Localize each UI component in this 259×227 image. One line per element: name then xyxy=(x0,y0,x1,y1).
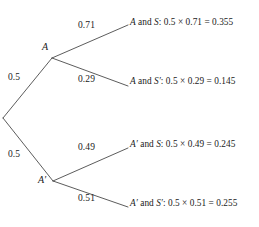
tree-branch-lines xyxy=(0,0,259,227)
branch-root-to-A xyxy=(3,58,52,118)
probability-tree-diagram: A A′ 0.5 0.5 0.71 0.29 0.49 0.51 A and S… xyxy=(0,0,259,227)
probability-A-to-S-prime: 0.29 xyxy=(78,75,95,85)
probability-root-to-A-prime: 0.5 xyxy=(8,150,20,160)
probability-root-to-A: 0.5 xyxy=(8,73,20,83)
branch-A-prime-to-S xyxy=(53,148,128,181)
probability-A-prime-to-S-prime: 0.51 xyxy=(78,194,95,204)
outcome-label-A-and-S: A and S: 0.5 × 0.71 = 0.355 xyxy=(130,18,233,27)
outcome-label-A-and-S-prime: A and S′: 0.5 × 0.29 = 0.145 xyxy=(130,77,235,86)
node-label-A: A xyxy=(42,42,48,52)
probability-A-to-S: 0.71 xyxy=(78,21,95,31)
outcome-label-A-prime-and-S-prime: A′ and S′: 0.5 × 0.51 = 0.255 xyxy=(130,199,237,208)
outcome-label-A-prime-and-S: A′ and S: 0.5 × 0.49 = 0.245 xyxy=(130,140,235,149)
probability-A-prime-to-S: 0.49 xyxy=(78,143,95,153)
node-label-A-prime: A′ xyxy=(38,175,46,185)
